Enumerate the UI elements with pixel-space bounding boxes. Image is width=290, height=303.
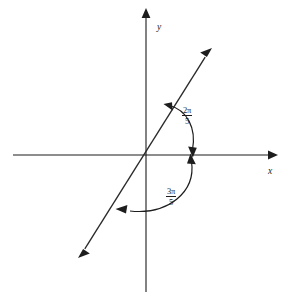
- x-axis-label: x: [267, 166, 273, 176]
- arc-3pi-over-5-path: [130, 162, 192, 212]
- diagram-canvas: y x: [0, 0, 290, 303]
- angle-diagram-figure: y x 2π 5 3π 5: [0, 0, 290, 303]
- arc-2pi-over-5-arrow-icon: [164, 102, 173, 110]
- angle-label-2pi-over-5: 2π 5: [182, 106, 192, 125]
- y-axis-label: y: [156, 22, 162, 32]
- angle-label-3pi-over-5: 3π 5: [166, 187, 176, 206]
- terminal-ray-upper-arrow-icon: [200, 48, 212, 57]
- arc-2pi-over-5-start-arrow-icon: [188, 147, 197, 158]
- y-axis: [142, 8, 151, 292]
- terminal-side-segment: [85, 57, 205, 249]
- y-axis-arrow-icon: [142, 8, 151, 18]
- x-axis-arrow-icon: [268, 151, 278, 160]
- angle-label-3pi-over-5-numerator: 3π: [166, 187, 176, 197]
- arc-3pi-over-5-arrow-icon: [116, 205, 128, 214]
- angle-label-2pi-over-5-numerator: 2π: [182, 106, 192, 116]
- arc-3pi-over-5: [116, 154, 196, 214]
- angle-label-2pi-over-5-denominator: 5: [182, 116, 192, 125]
- angle-label-3pi-over-5-denominator: 5: [166, 197, 176, 206]
- terminal-ray-lower-arrow-icon: [78, 249, 90, 258]
